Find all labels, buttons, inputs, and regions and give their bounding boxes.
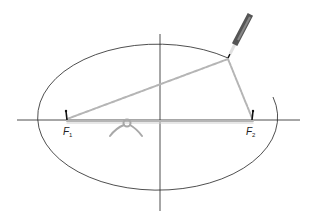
pin-f1 (65, 110, 67, 120)
diagram-canvas (0, 0, 314, 223)
pin-f2 (252, 110, 254, 120)
ellipse-string-diagram: F1 F2 (0, 0, 314, 223)
pencil-icon (228, 17, 250, 58)
focus-label-f1: F1 (63, 127, 72, 138)
focus-label-f2: F2 (246, 127, 255, 138)
